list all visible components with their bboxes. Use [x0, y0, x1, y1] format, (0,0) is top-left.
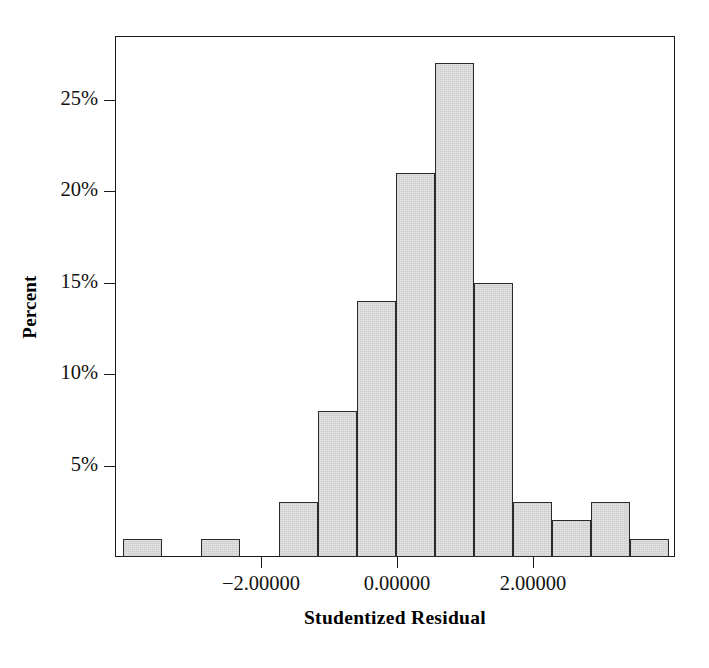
x-axis-tick [397, 557, 398, 568]
y-axis-tick [104, 100, 115, 101]
y-axis-tick-label: 5% [0, 453, 98, 476]
x-axis-tick-label: 2.00000 [463, 572, 603, 595]
histogram-bar [279, 502, 318, 557]
y-axis-tick-label: 20% [0, 178, 98, 201]
histogram-bar [630, 539, 669, 557]
x-axis-tick-label: 0.00000 [327, 572, 467, 595]
y-axis-title: Percent [19, 247, 41, 367]
y-axis-tick [104, 283, 115, 284]
histogram-bar [201, 539, 240, 557]
histogram-bar [552, 520, 591, 557]
y-axis-tick [104, 374, 115, 375]
histogram-bars [115, 36, 675, 557]
histogram-bar [591, 502, 630, 557]
histogram-bar [123, 539, 162, 557]
histogram-bar [474, 283, 513, 557]
histogram-bar [513, 502, 552, 557]
y-axis-tick [104, 466, 115, 467]
histogram-bar [396, 173, 435, 557]
x-axis-tick [533, 557, 534, 568]
x-axis-tick-label: −2.00000 [191, 572, 331, 595]
y-axis-tick-label: 10% [0, 361, 98, 384]
y-axis-tick-label: 25% [0, 87, 98, 110]
x-axis-tick [261, 557, 262, 568]
x-axis-title: Studentized Residual [115, 607, 675, 629]
y-axis-tick-label: 15% [0, 270, 98, 293]
y-axis-tick [104, 191, 115, 192]
histogram-bar [357, 301, 396, 557]
histogram-bar [318, 411, 357, 557]
histogram-bar [435, 63, 474, 557]
histogram-figure: 25%20%15%10%5% −2.000000.000002.00000 Pe… [0, 0, 709, 668]
